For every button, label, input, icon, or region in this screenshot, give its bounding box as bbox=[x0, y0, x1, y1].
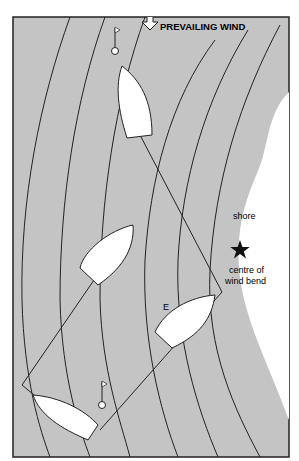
mark-e-label: E bbox=[163, 302, 169, 312]
shore-label: shore bbox=[233, 211, 256, 221]
wind-bend-label: wind bend bbox=[224, 276, 266, 286]
centre-label: centre of bbox=[229, 265, 265, 275]
wind-label: PREVAILING WIND bbox=[160, 21, 245, 32]
wind-bend-diagram: PREVAILING WIND shore centre of wind ben… bbox=[0, 0, 299, 461]
